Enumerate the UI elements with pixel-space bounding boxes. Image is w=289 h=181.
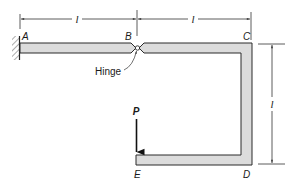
hinge-leader [124, 51, 137, 70]
point-e-label: E [134, 169, 141, 180]
dim-ab-label: l [75, 13, 78, 25]
point-a-label: A [21, 31, 29, 42]
fixed-support-icon [12, 36, 20, 60]
top-dimension: l l [20, 10, 251, 40]
point-b-label: B [125, 31, 132, 42]
dim-bc-label: l [191, 13, 194, 25]
frame-bcde [136, 43, 252, 165]
point-c-label: C [243, 31, 251, 42]
hinge-label: Hinge [95, 66, 122, 77]
point-d-label: D [243, 169, 250, 180]
side-dimension: l [258, 44, 285, 164]
frame-diagram: l l l P A B C E D Hinge [0, 0, 289, 181]
beam-ab [20, 43, 136, 53]
dim-cd-label: l [270, 98, 273, 110]
load-label: P [133, 106, 140, 117]
